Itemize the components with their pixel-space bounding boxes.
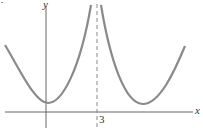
y-axis-label: y [43,0,48,10]
x-axis-label: x [195,104,200,116]
asymptote-tick-label: 3 [99,113,105,125]
right-branch-curve [101,5,185,104]
graph-canvas [0,0,203,128]
left-branch-curve [5,5,91,103]
